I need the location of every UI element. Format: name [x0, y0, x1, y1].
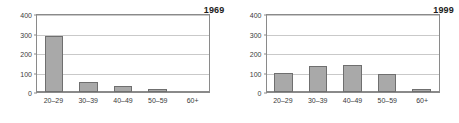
bar-slot-30-39-1969	[71, 15, 105, 92]
bar-50-59-1999	[378, 74, 397, 92]
bar-slot-20-29-1969	[37, 15, 71, 92]
xlabel-30-39-1969: 30–39	[71, 97, 106, 104]
bar-slot-50-59-1999	[370, 15, 404, 92]
bar-slot-60-plus-1999	[404, 15, 438, 92]
bar-60-plus-1999	[412, 89, 431, 92]
xlabel-60-plus-1969: 60+	[175, 97, 210, 104]
plot-area-1969: 400 300 200 100 0	[36, 14, 210, 93]
bar-slot-20-29-1999	[267, 15, 301, 92]
bar-20-29-1999	[274, 73, 293, 92]
xlabel-30-39-1999: 30–39	[300, 97, 335, 104]
xlabel-50-59-1969: 50–59	[140, 97, 175, 104]
bar-30-39-1999	[309, 66, 328, 92]
bar-30-39-1969	[79, 82, 98, 92]
xlabel-50-59-1999: 50–59	[370, 97, 405, 104]
x-axis-labels-1999: 20–29 30–39 40–49 50–59 60+	[266, 97, 440, 104]
bar-slot-50-59-1969	[140, 15, 174, 92]
bar-40-49-1969	[114, 86, 133, 92]
bar-slot-40-49-1969	[106, 15, 140, 92]
x-axis-labels-1969: 20–29 30–39 40–49 50–59 60+	[36, 97, 210, 104]
ytick-label-300-1999: 300	[250, 31, 267, 38]
year-annotation-1969: 1969	[204, 6, 225, 15]
xlabel-60-plus-1999: 60+	[405, 97, 440, 104]
ytick-label-400-1999: 400	[250, 12, 267, 19]
bar-slot-40-49-1999	[335, 15, 369, 92]
bar-40-49-1999	[343, 65, 362, 92]
ytick-label-100-1999: 100	[250, 70, 267, 77]
ytick-label-200-1999: 200	[250, 51, 267, 58]
ytick-label-0-1999: 0	[258, 90, 267, 97]
bar-series-1999	[267, 15, 439, 92]
xlabel-20-29-1969: 20–29	[36, 97, 71, 104]
ytick-label-200-1969: 200	[20, 51, 37, 58]
plot-area-1999: 400 300 200 100 0	[266, 14, 440, 93]
chart-panel-1999: 400 300 200 100 0	[230, 0, 459, 123]
xlabel-40-49-1999: 40–49	[335, 97, 370, 104]
year-annotation-1999: 1999	[433, 6, 454, 15]
ytick-label-400-1969: 400	[20, 12, 37, 19]
bar-slot-60-plus-1969	[175, 15, 209, 92]
bar-20-29-1969	[45, 36, 64, 92]
bar-50-59-1969	[148, 89, 167, 92]
two-panel-bar-chart-figure: 400 300 200 100 0	[0, 0, 459, 123]
xlabel-40-49-1969: 40–49	[106, 97, 141, 104]
ytick-label-0-1969: 0	[28, 90, 37, 97]
chart-panel-1969: 400 300 200 100 0	[0, 0, 230, 123]
ytick-label-300-1969: 300	[20, 31, 37, 38]
ytick-label-100-1969: 100	[20, 70, 37, 77]
bar-series-1969	[37, 15, 209, 92]
xlabel-20-29-1999: 20–29	[266, 97, 301, 104]
bar-slot-30-39-1999	[301, 15, 335, 92]
